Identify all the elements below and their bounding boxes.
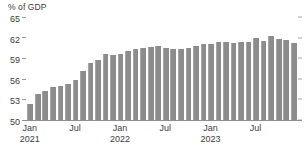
x-axis-tick-label: Jan2022 bbox=[110, 123, 130, 145]
bar bbox=[35, 94, 41, 120]
y-axis-tick: 53 bbox=[10, 94, 26, 104]
bar bbox=[58, 86, 64, 120]
bar bbox=[261, 41, 267, 120]
x-axis-tick-label-year: 2023 bbox=[200, 134, 220, 145]
y-axis-tick-label: 62 bbox=[10, 35, 20, 45]
bar bbox=[133, 49, 139, 120]
right-axis-tick-mark bbox=[298, 17, 302, 18]
bar bbox=[291, 43, 297, 120]
x-axis-tick-label-year: 2021 bbox=[20, 134, 40, 145]
y-axis-unit-label: % of GDP bbox=[8, 2, 47, 12]
bar bbox=[178, 49, 184, 120]
bar bbox=[216, 42, 222, 120]
bar bbox=[276, 39, 282, 120]
x-axis-tick-label: Jul bbox=[69, 123, 81, 134]
x-axis-tick-label-month: Jul bbox=[250, 123, 262, 134]
bar bbox=[223, 42, 229, 120]
bar bbox=[231, 43, 237, 120]
right-axis-tick-mark bbox=[298, 78, 302, 79]
y-axis-tick-label: 59 bbox=[10, 55, 20, 65]
bar bbox=[125, 51, 131, 120]
y-axis-tick-label: 56 bbox=[10, 76, 20, 86]
bar bbox=[268, 36, 274, 120]
bar bbox=[170, 49, 176, 120]
x-axis-tick-label: Jul bbox=[159, 123, 171, 134]
bar bbox=[186, 48, 192, 120]
bars-layer bbox=[26, 17, 297, 120]
plot-area bbox=[26, 17, 297, 120]
y-axis-tick-label: 65 bbox=[10, 14, 20, 24]
bar bbox=[193, 46, 199, 120]
right-axis-tick-mark bbox=[298, 37, 302, 38]
bar bbox=[73, 80, 79, 121]
bar bbox=[201, 44, 207, 120]
bar bbox=[140, 48, 146, 120]
bar bbox=[155, 46, 161, 120]
x-axis-tick-label-month: Jan bbox=[200, 123, 220, 134]
y-axis-tick: 65 bbox=[10, 12, 26, 22]
bar bbox=[253, 38, 259, 120]
right-axis-tick-mark bbox=[298, 58, 302, 59]
bar bbox=[50, 87, 56, 120]
bar bbox=[88, 63, 94, 120]
bar bbox=[283, 40, 289, 120]
x-axis-tick-label-month: Jan bbox=[20, 123, 40, 134]
y-axis-tick-label: 53 bbox=[10, 96, 20, 106]
bar bbox=[208, 44, 214, 120]
bar bbox=[110, 55, 116, 120]
x-axis: Jan2021JulJan2022JulJan2023Jul bbox=[26, 123, 297, 155]
x-axis-tick-label-month: Jul bbox=[69, 123, 81, 134]
bar bbox=[65, 84, 71, 120]
y-axis-tick-label: 50 bbox=[10, 117, 20, 127]
x-axis-tick-label-month: Jul bbox=[159, 123, 171, 134]
bar bbox=[238, 42, 244, 120]
bar bbox=[27, 104, 33, 120]
bar bbox=[163, 48, 169, 120]
y-axis-tick: 56 bbox=[10, 74, 26, 84]
y-axis: 505356596265 bbox=[0, 17, 26, 120]
x-axis-tick-label-month: Jan bbox=[110, 123, 130, 134]
bar bbox=[103, 54, 109, 120]
gdp-bar-chart: % of GDP 505356596265 Jan2021JulJan2022J… bbox=[0, 0, 307, 157]
x-axis-tick-label-year: 2022 bbox=[110, 134, 130, 145]
bar bbox=[95, 60, 101, 120]
bar bbox=[246, 42, 252, 120]
bar bbox=[42, 91, 48, 120]
x-axis-tick-label: Jul bbox=[250, 123, 262, 134]
bar bbox=[80, 71, 86, 120]
bar bbox=[118, 54, 124, 120]
x-axis-baseline bbox=[22, 120, 302, 121]
right-axis-ticks bbox=[297, 17, 305, 120]
y-axis-tick: 62 bbox=[10, 33, 26, 43]
y-axis-tick: 59 bbox=[10, 53, 26, 63]
x-axis-tick-label: Jan2023 bbox=[200, 123, 220, 145]
bar bbox=[148, 47, 154, 120]
right-axis-tick-mark bbox=[298, 99, 302, 100]
x-axis-tick-label: Jan2021 bbox=[20, 123, 40, 145]
